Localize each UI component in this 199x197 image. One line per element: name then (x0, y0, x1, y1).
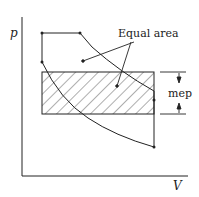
mep-rectangle (42, 72, 154, 114)
equal-area-label: Equal area (118, 27, 179, 40)
pv-diagram: p V Equal area mep (0, 0, 199, 197)
y-axis-label: p (10, 26, 18, 40)
x-axis-label: V (173, 179, 183, 193)
mep-label: mep (168, 87, 192, 100)
